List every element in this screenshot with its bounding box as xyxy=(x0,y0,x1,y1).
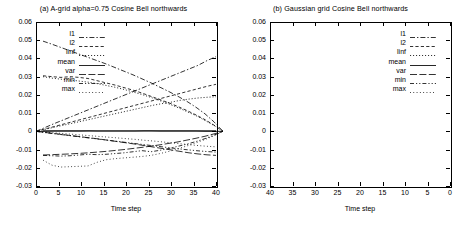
ytick-label: 0.03 xyxy=(234,73,266,81)
ytick-mark xyxy=(36,95,40,96)
legend-entry-mean[interactable]: mean xyxy=(379,57,436,66)
legend-line-sample xyxy=(79,70,105,71)
xtick-label: 25 xyxy=(140,189,158,197)
ytick-mark xyxy=(36,186,40,187)
legend-entry-linf[interactable]: linf xyxy=(379,47,436,56)
ytick-mark-right xyxy=(212,77,216,78)
xtick-label: 30 xyxy=(306,189,324,197)
ytick-mark-right xyxy=(446,58,450,59)
ytick-mark xyxy=(270,150,274,151)
xtick-label: 0 xyxy=(441,189,454,197)
xtick-label: 20 xyxy=(117,189,135,197)
legend-label: max xyxy=(379,84,410,93)
ytick-label: 0.01 xyxy=(0,109,32,117)
ytick-label: 0.03 xyxy=(0,73,32,81)
xtick-label: 5 xyxy=(50,189,68,197)
legend-entry-var[interactable]: var xyxy=(48,66,105,75)
xtick-mark xyxy=(360,182,361,186)
legend-label: l1 xyxy=(379,29,410,38)
ytick-mark xyxy=(36,113,40,114)
legend-entry-mean[interactable]: mean xyxy=(48,57,105,66)
legend-entry-min[interactable]: min xyxy=(379,75,436,84)
chart-panel-a: (a) A-grid alpha=0.75 Cosine Bell northw… xyxy=(0,0,227,225)
ytick-label: 0.06 xyxy=(0,18,32,26)
legend-label: mean xyxy=(48,57,79,66)
xtick-mark-top xyxy=(36,22,37,26)
ytick-mark-right xyxy=(446,168,450,169)
xtick-mark-top xyxy=(360,22,361,26)
ytick-mark-right xyxy=(212,58,216,59)
ytick-mark xyxy=(270,131,274,132)
legend-entry-linf[interactable]: linf xyxy=(48,47,105,56)
ytick-label: 0.04 xyxy=(234,54,266,62)
xtick-mark-top xyxy=(194,22,195,26)
legend-label: l2 xyxy=(48,38,79,47)
panel-b-xaxis-title: Time step xyxy=(300,205,420,212)
ytick-mark-right xyxy=(446,77,450,78)
ytick-mark-right xyxy=(446,113,450,114)
xtick-label: 5 xyxy=(419,189,437,197)
legend-line-sample xyxy=(410,79,436,80)
xtick-label: 15 xyxy=(95,189,113,197)
xtick-label: 25 xyxy=(329,189,347,197)
xtick-label: 0 xyxy=(27,189,45,197)
legend-label: min xyxy=(48,75,79,84)
legend-entry-max[interactable]: max xyxy=(48,84,105,93)
xtick-mark xyxy=(36,182,37,186)
panel-b-legend: l1l2linfmeanvarminmax xyxy=(379,29,436,93)
ytick-mark xyxy=(270,168,274,169)
legend-entry-l2[interactable]: l2 xyxy=(379,38,436,47)
xtick-label: 40 xyxy=(261,189,279,197)
xtick-mark xyxy=(171,182,172,186)
ytick-mark-right xyxy=(446,40,450,41)
xtick-mark-top xyxy=(216,22,217,26)
legend-label: max xyxy=(48,84,79,93)
legend-label: l2 xyxy=(379,38,410,47)
legend-line-sample xyxy=(410,88,436,89)
legend-entry-l1[interactable]: l1 xyxy=(379,29,436,38)
xtick-mark xyxy=(383,182,384,186)
ytick-mark-right xyxy=(446,186,450,187)
xtick-mark-top xyxy=(126,22,127,26)
legend-label: l1 xyxy=(48,29,79,38)
ytick-mark xyxy=(36,58,40,59)
ytick-mark xyxy=(36,40,40,41)
legend-entry-min[interactable]: min xyxy=(48,75,105,84)
xtick-mark-top xyxy=(405,22,406,26)
chart-panel-b: (b) Gaussian grid Cosine Bell northwards… xyxy=(227,0,454,225)
xtick-mark-top xyxy=(59,22,60,26)
legend-line-sample xyxy=(410,42,436,43)
ytick-label: 0 xyxy=(234,127,266,135)
legend-line-sample xyxy=(410,33,436,34)
ytick-mark-right xyxy=(446,131,450,132)
legend-entry-var[interactable]: var xyxy=(379,66,436,75)
xtick-mark-top xyxy=(270,22,271,26)
xtick-label: 15 xyxy=(374,189,392,197)
xtick-label: 35 xyxy=(284,189,302,197)
xtick-label: 20 xyxy=(351,189,369,197)
xtick-label: 30 xyxy=(162,189,180,197)
ytick-label: -0.01 xyxy=(0,146,32,154)
xtick-mark xyxy=(293,182,294,186)
legend-entry-l1[interactable]: l1 xyxy=(48,29,105,38)
legend-line-sample xyxy=(410,70,436,71)
ytick-label: 0.04 xyxy=(0,54,32,62)
xtick-mark-top xyxy=(81,22,82,26)
xtick-label: 10 xyxy=(72,189,90,197)
xtick-mark-top xyxy=(428,22,429,26)
xtick-mark xyxy=(270,182,271,186)
xtick-mark-top xyxy=(315,22,316,26)
ytick-mark xyxy=(36,168,40,169)
legend-entry-max[interactable]: max xyxy=(379,84,436,93)
ytick-mark xyxy=(270,186,274,187)
xtick-mark-top xyxy=(104,22,105,26)
ytick-label: 0.05 xyxy=(0,36,32,44)
ytick-label: 0.02 xyxy=(0,91,32,99)
ytick-label: 0.06 xyxy=(234,18,266,26)
legend-label: linf xyxy=(379,47,410,56)
ytick-mark xyxy=(270,95,274,96)
series-max xyxy=(36,131,216,146)
ytick-mark xyxy=(36,77,40,78)
xtick-mark xyxy=(216,182,217,186)
ytick-label: -0.02 xyxy=(0,164,32,172)
